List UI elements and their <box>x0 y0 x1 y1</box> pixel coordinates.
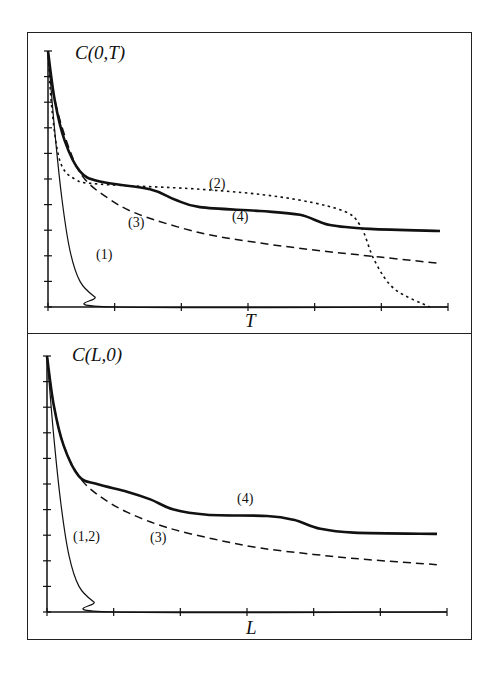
top-panel-title: C(0,T) <box>75 42 125 64</box>
bottom-curve-label-1-2: (1,2) <box>73 529 100 545</box>
curve-3 <box>48 51 440 263</box>
top-curve-label-2: (2) <box>209 176 225 192</box>
top-x-axis-label: T <box>245 310 256 332</box>
curve-1 <box>48 51 448 308</box>
bottom-curve-label-3: (3) <box>150 530 166 546</box>
bottom-curve-label-4: (4) <box>237 491 253 507</box>
top-panel-plot <box>44 51 448 311</box>
top-curve-label-1: (1) <box>96 247 112 263</box>
curve-4 <box>48 51 440 231</box>
curve-1-2 <box>47 356 447 613</box>
curve-2 <box>48 51 430 307</box>
bottom-panel-plot <box>43 356 447 616</box>
bottom-panel-title: C(L,0) <box>72 344 122 366</box>
curve-4 <box>47 356 437 534</box>
bottom-x-axis-label: L <box>246 617 257 639</box>
top-curve-label-3: (3) <box>128 215 144 231</box>
chart-canvas <box>0 0 493 674</box>
top-curve-label-4: (4) <box>232 209 248 225</box>
